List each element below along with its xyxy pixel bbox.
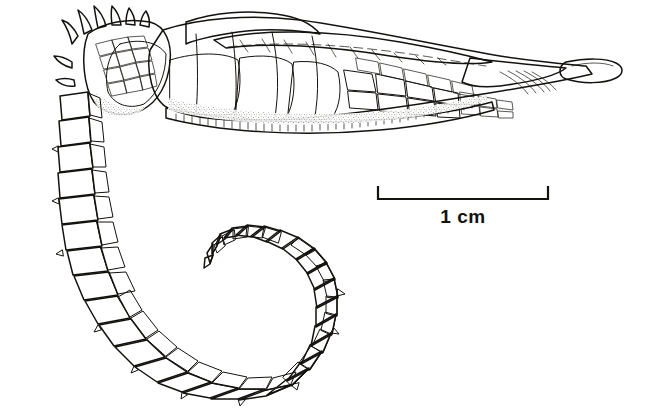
trunk-group xyxy=(149,12,622,133)
illustration-plate: 1 cm xyxy=(0,0,655,416)
pipehorse-illustration xyxy=(0,0,655,416)
coronet-spines xyxy=(54,6,149,86)
tail-spiral-inner xyxy=(207,225,281,263)
dorsal-fin xyxy=(214,32,492,66)
head-plate-mosaic xyxy=(96,36,157,96)
scale-bar-label: 1 cm xyxy=(403,206,523,228)
prehensile-tail xyxy=(52,92,345,406)
scale-bar xyxy=(378,186,548,199)
tail-tip xyxy=(204,255,213,268)
trunk-outline xyxy=(149,17,592,121)
tail-segments-bottom xyxy=(85,296,291,400)
tail-edge-knobs xyxy=(52,146,345,406)
tail-ascending-subridge xyxy=(283,238,338,386)
tail-segments-upper xyxy=(58,92,118,300)
head-group xyxy=(54,6,170,116)
